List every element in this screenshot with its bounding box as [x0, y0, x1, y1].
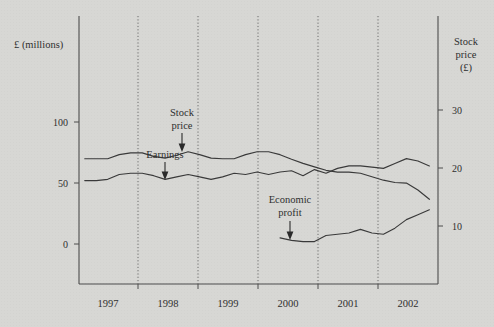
chart-page: £ (millions) Stock price (£) 100 50 0 30… — [0, 0, 494, 327]
x-label-2000: 2000 — [278, 298, 299, 309]
left-axis-title: £ (millions) — [14, 39, 64, 51]
x-label-1999: 1999 — [218, 298, 239, 309]
right-axis-title-line-1: Stock — [454, 36, 479, 47]
annotation-economic-profit-line-1: Economic — [269, 194, 312, 205]
left-tick-label-0: 0 — [63, 239, 68, 250]
right-tick-label-30: 30 — [452, 105, 462, 116]
right-tick-label-10: 10 — [452, 221, 462, 232]
annotation-stock-price-line-2: price — [172, 120, 193, 131]
left-tick-label-50: 50 — [58, 178, 68, 189]
annotation-economic-profit: Economic profit — [269, 194, 312, 240]
annotation-stock-price: Stock price — [170, 107, 195, 152]
x-label-1997: 1997 — [98, 298, 119, 309]
annotation-economic-profit-arrow-head — [287, 232, 294, 241]
x-label-1998: 1998 — [158, 298, 179, 309]
left-tick-label-100: 100 — [53, 117, 68, 128]
series-economic-profit — [280, 210, 429, 242]
annotation-stock-price-line-1: Stock — [170, 107, 195, 118]
annotation-economic-profit-line-2: profit — [278, 207, 301, 218]
right-axis-title-line-2: price — [456, 49, 477, 60]
right-tick-label-20: 20 — [452, 163, 462, 174]
line-chart: £ (millions) Stock price (£) 100 50 0 30… — [0, 0, 494, 327]
right-axis-title: Stock price (£) — [454, 36, 479, 74]
x-label-2002: 2002 — [398, 298, 419, 309]
x-label-2001: 2001 — [338, 298, 359, 309]
right-axis-title-line-3: (£) — [460, 62, 473, 74]
annotation-earnings-label: Earnings — [146, 149, 183, 160]
